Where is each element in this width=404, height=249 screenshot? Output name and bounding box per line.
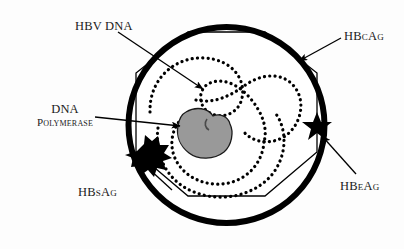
label-dna-polymerase: DNA Polymerase	[22, 103, 108, 129]
hbeag-leader-arrow	[322, 136, 356, 174]
label-hbcag: HBcAg	[344, 30, 384, 43]
hbcag-leader-arrow	[299, 38, 341, 61]
label-dna-polymerase-line1: DNA	[22, 103, 108, 116]
label-hbeag: HBeAg	[340, 180, 379, 193]
dna-polymerase-blob	[177, 109, 232, 159]
label-hbv-dna: HBV DNA	[75, 20, 133, 33]
label-hbsag: HBsAg	[78, 186, 117, 199]
label-dna-polymerase-line2: Polymerase	[22, 117, 108, 129]
